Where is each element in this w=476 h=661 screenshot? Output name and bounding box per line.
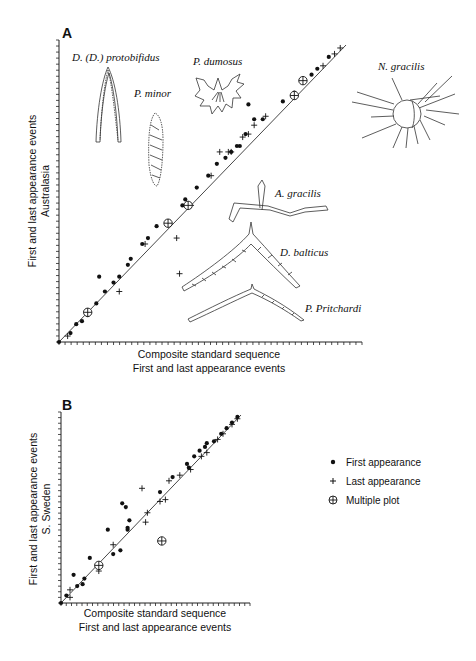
dot-icon [331, 460, 335, 464]
species-label-a-gracilis: A. gracilis [274, 187, 321, 199]
first-appearance-point [246, 102, 250, 106]
last-appearance-point [245, 131, 251, 137]
last-appearance-point [116, 289, 122, 295]
first-appearance-point [223, 156, 227, 160]
panel-a-y-subtitle: Australasia [39, 165, 51, 217]
first-appearance-point [68, 331, 72, 335]
first-appearance-point [127, 518, 131, 522]
first-appearance-point [111, 281, 115, 285]
multiple-plot-point [95, 561, 103, 569]
first-appearance-point [154, 224, 158, 228]
last-appearance-point [320, 63, 326, 69]
first-appearance-point [225, 426, 229, 430]
legend: First appearance Last appearance Multipl… [329, 457, 421, 506]
first-appearance-point [126, 263, 130, 267]
multiple-plot-point [164, 219, 172, 227]
last-appearance-point [228, 149, 234, 155]
species-label-p-dumosus: P. dumosus [192, 55, 242, 67]
multiple-plot-point [184, 201, 192, 209]
last-appearance-point [251, 122, 257, 128]
first-appearance-point [158, 490, 162, 494]
first-appearance-point [88, 556, 92, 560]
species-label-d-balticus: D. balticus [279, 246, 328, 258]
first-appearance-point [281, 99, 285, 103]
last-appearance-point [174, 235, 180, 241]
first-appearance-point [183, 197, 187, 201]
drawing-n-gracilis [352, 76, 459, 148]
panel-b-x-title: Composite standard sequence [84, 607, 227, 619]
drawing-p-minor [149, 113, 163, 186]
first-appearance-point [126, 528, 130, 532]
first-appearance-point [82, 576, 86, 580]
legend-item-multiple-plot: Multiple plot [329, 495, 400, 506]
drawing-p-pritchardi [188, 284, 304, 322]
last-appearance-point [332, 51, 338, 57]
first-appearance-point [117, 275, 121, 279]
first-appearance-point [80, 319, 84, 323]
first-appearance-point [315, 67, 319, 71]
panel-b-ticks [58, 412, 250, 606]
panel-a-label: A [62, 25, 72, 41]
legend-label: Multiple plot [346, 495, 400, 506]
first-appearance-point [106, 528, 110, 532]
panel-a-x-subtitle: First and last appearance events [133, 362, 285, 374]
multiple-plot-point [84, 308, 92, 316]
last-appearance-point [143, 519, 149, 525]
first-appearance-point [124, 505, 128, 509]
last-appearance-point [337, 45, 343, 51]
panel-b-label: B [62, 397, 72, 413]
circle-plus-icon [329, 496, 337, 504]
first-appearance-point [171, 475, 175, 479]
last-appearance-point [166, 478, 172, 484]
first-appearance-point [261, 117, 265, 121]
first-appearance-point [198, 449, 202, 453]
panel-b: B First and last appearance events S. Sw… [27, 397, 421, 633]
first-appearance-point [118, 548, 122, 552]
first-appearance-point [185, 462, 189, 466]
first-appearance-point [75, 584, 79, 588]
first-appearance-point [81, 582, 85, 586]
first-appearance-point [74, 322, 78, 326]
drawing-protobifidus [96, 67, 121, 142]
last-appearance-point [157, 498, 163, 504]
last-appearance-point [139, 485, 145, 491]
panel-a: A First and last appearance events Austr… [26, 25, 459, 374]
species-label-p-pritchardi: P. Pritchardi [304, 302, 361, 314]
last-appearance-point [208, 173, 214, 179]
panel-a-y-title: First and last appearance events [26, 115, 38, 267]
first-appearance-point [309, 73, 313, 77]
first-appearance-point [57, 340, 61, 344]
figure: A First and last appearance events Austr… [0, 0, 476, 661]
last-appearance-point [142, 241, 148, 247]
first-appearance-point [327, 55, 331, 59]
first-appearance-point [215, 162, 219, 166]
last-appearance-point [204, 450, 210, 456]
panel-b-x-subtitle: First and last appearance events [79, 621, 231, 633]
legend-item-first-appearance: First appearance [331, 457, 422, 468]
first-appearance-point [203, 445, 207, 449]
panel-a-x-title: Composite standard sequence [138, 348, 281, 360]
species-label-n-gracilis: N. gracilis [377, 60, 424, 72]
last-appearance-point [177, 271, 183, 277]
first-appearance-point [94, 301, 98, 305]
species-label-protobifidus: D. (D.) protobifidus [71, 51, 160, 64]
first-appearance-point [146, 236, 150, 240]
panel-b-y-title: First and last appearance events [27, 433, 39, 585]
legend-label: First appearance [346, 457, 421, 468]
plus-icon [330, 478, 336, 484]
first-appearance-point [103, 289, 107, 293]
first-appearance-point [120, 501, 124, 505]
legend-label: Last appearance [346, 476, 421, 487]
first-appearance-point [252, 117, 256, 121]
multiple-plot-point [158, 537, 166, 545]
first-appearance-point [192, 454, 196, 458]
multiple-plot-point [290, 91, 298, 99]
drawing-p-dumosus [195, 74, 244, 114]
first-appearance-point [59, 601, 63, 605]
legend-item-last-appearance: Last appearance [330, 476, 421, 487]
first-appearance-point [111, 552, 115, 556]
multiple-plot-point [299, 76, 307, 84]
first-appearance-point [238, 144, 242, 148]
first-appearance-point [205, 441, 209, 445]
panel-b-y-subtitle: S. Sweden [40, 483, 52, 534]
